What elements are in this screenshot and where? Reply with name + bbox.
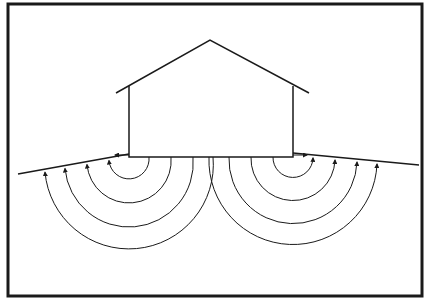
flow-arc <box>273 157 313 177</box>
roof <box>116 40 309 93</box>
frame-rect <box>8 4 422 296</box>
house-outline <box>116 40 309 157</box>
flow-arc <box>87 157 171 203</box>
border-frame <box>8 4 422 296</box>
ground-line <box>18 153 419 174</box>
flow-arc <box>229 157 357 224</box>
ground-left <box>18 154 129 174</box>
flow-arc <box>251 157 335 201</box>
flow-arcs <box>45 155 377 249</box>
flow-arc <box>65 157 193 227</box>
foundation-diagram <box>0 0 426 300</box>
flow-arc <box>109 157 149 179</box>
walls <box>129 86 293 157</box>
